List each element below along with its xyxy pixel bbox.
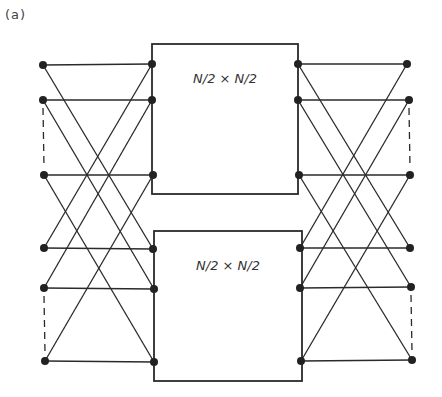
node-left-inputs <box>40 171 48 179</box>
node-upper-box-out <box>294 96 302 104</box>
node-left-inputs <box>40 244 48 252</box>
figure-label: (a) <box>5 7 26 22</box>
node-right-outputs <box>406 244 414 252</box>
left-straight-edge <box>45 361 154 362</box>
right-straight-edge <box>300 287 411 288</box>
dashed-gap-line <box>411 295 412 352</box>
node-right-outputs <box>405 96 413 104</box>
node-left-inputs <box>39 61 47 69</box>
network-nodes <box>39 60 416 366</box>
node-left-inputs <box>40 284 48 292</box>
upper-subnetwork-label: N/2 × N/2 <box>193 71 257 86</box>
node-lower-box-in <box>149 245 157 253</box>
node-lower-box-out <box>296 284 304 292</box>
lower-subnetwork-label: N/2 × N/2 <box>196 258 260 273</box>
node-right-outputs <box>406 171 414 179</box>
node-lower-box-in <box>150 358 158 366</box>
network-diagram <box>0 0 442 397</box>
dashed-gap-line <box>409 108 410 167</box>
left-straight-edge <box>43 64 152 65</box>
right-straight-edge <box>301 360 412 361</box>
node-lower-box-out <box>296 244 304 252</box>
diagram-canvas: (a) N/2 × N/2 N/2 × N/2 <box>0 0 442 397</box>
node-upper-box-in <box>148 96 156 104</box>
node-upper-box-in <box>149 171 157 179</box>
node-right-outputs <box>408 356 416 364</box>
node-right-outputs <box>403 60 411 68</box>
node-upper-box-out <box>295 171 303 179</box>
subnetwork-box-lower <box>154 231 302 381</box>
node-left-inputs <box>41 357 49 365</box>
dashed-gap-line <box>43 108 44 167</box>
subnetwork-box-upper <box>152 44 298 194</box>
right-cross-edge <box>300 100 409 288</box>
node-lower-box-out <box>297 357 305 365</box>
node-upper-box-in <box>148 60 156 68</box>
right-cross-edge <box>300 64 407 248</box>
subnetwork-boxes <box>152 44 302 381</box>
node-left-inputs <box>39 96 47 104</box>
left-straight-edge <box>44 248 153 249</box>
node-upper-box-out <box>294 60 302 68</box>
node-lower-box-in <box>150 285 158 293</box>
left-straight-edge <box>44 288 154 289</box>
right-cross-edge <box>301 175 410 361</box>
dashed-gap-line <box>44 296 45 353</box>
node-right-outputs <box>407 283 415 291</box>
connection-lines <box>43 64 412 362</box>
